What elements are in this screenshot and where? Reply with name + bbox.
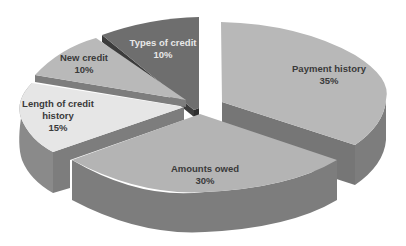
label-amounts-owed-pct: 30% — [195, 175, 215, 186]
label-amounts-owed: Amounts owed — [171, 163, 239, 174]
label-types-of-credit: Types of credit — [130, 37, 198, 48]
label-new-credit-pct: 10% — [74, 64, 94, 75]
label-length-line1: Length of credit — [22, 98, 95, 109]
label-payment-history: Payment history — [292, 63, 367, 74]
label-types-of-credit-pct: 10% — [153, 49, 173, 60]
label-length-line2: history — [42, 110, 74, 121]
label-payment-history-pct: 35% — [319, 75, 339, 86]
label-new-credit: New credit — [60, 52, 109, 63]
pie-chart: Types of credit 10% New credit 10% Lengt… — [0, 0, 406, 246]
label-length-pct: 15% — [48, 122, 68, 133]
